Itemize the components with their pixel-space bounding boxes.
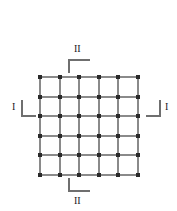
direction-label-right: I [165, 102, 168, 112]
bracket-arm-vertical [68, 59, 70, 73]
lattice-node [97, 114, 101, 118]
direction-marker-left: I [12, 98, 40, 126]
lattice-node [58, 95, 62, 99]
corner-bracket-top-icon [68, 59, 90, 73]
lattice-node [58, 153, 62, 157]
grid-line-horizontal [39, 135, 137, 137]
lattice-node [97, 95, 101, 99]
grid-line-horizontal [39, 174, 137, 176]
lattice-node [38, 153, 42, 157]
lattice-node [38, 173, 42, 177]
corner-bracket-right-icon [146, 100, 161, 117]
grid-line-horizontal [39, 76, 137, 78]
grid-line-horizontal [39, 96, 137, 98]
direction-marker-top: II [63, 44, 97, 74]
grid-line-vertical [59, 76, 61, 174]
lattice-node [58, 134, 62, 138]
direction-label-top: II [74, 44, 81, 54]
lattice-figure: II II I I [0, 0, 177, 211]
lattice-node [97, 153, 101, 157]
lattice-node [116, 95, 120, 99]
corner-bracket-left-icon [21, 100, 36, 117]
lattice-node [58, 173, 62, 177]
grid-line-vertical [78, 76, 80, 174]
bracket-arm-horizontal [68, 190, 90, 192]
lattice-node [136, 153, 140, 157]
direction-label-left: I [12, 102, 15, 112]
lattice-grid [39, 76, 137, 174]
grid-line-vertical [98, 76, 100, 174]
lattice-node [116, 153, 120, 157]
lattice-node [116, 134, 120, 138]
bracket-arm-horizontal [68, 59, 90, 61]
direction-marker-bottom: II [63, 177, 97, 209]
lattice-node [77, 114, 81, 118]
lattice-node [38, 134, 42, 138]
grid-line-vertical [137, 76, 139, 174]
lattice-node [116, 75, 120, 79]
lattice-node [58, 114, 62, 118]
corner-bracket-bottom-icon [68, 178, 90, 192]
lattice-node [58, 75, 62, 79]
grid-line-horizontal [39, 154, 137, 156]
lattice-node [77, 153, 81, 157]
lattice-node [77, 134, 81, 138]
lattice-node [77, 75, 81, 79]
direction-marker-right: I [146, 98, 174, 126]
bracket-arm-horizontal [146, 115, 161, 117]
grid-line-vertical [117, 76, 119, 174]
lattice-node [116, 173, 120, 177]
lattice-node [136, 95, 140, 99]
lattice-node [97, 75, 101, 79]
lattice-node [77, 95, 81, 99]
lattice-node [97, 134, 101, 138]
lattice-node [38, 75, 42, 79]
lattice-node [136, 134, 140, 138]
grid-line-horizontal [39, 115, 137, 117]
direction-label-bottom: II [74, 196, 81, 206]
lattice-node [136, 173, 140, 177]
bracket-arm-horizontal [21, 115, 36, 117]
lattice-node [136, 114, 140, 118]
lattice-node [136, 75, 140, 79]
lattice-node [97, 173, 101, 177]
lattice-node [116, 114, 120, 118]
